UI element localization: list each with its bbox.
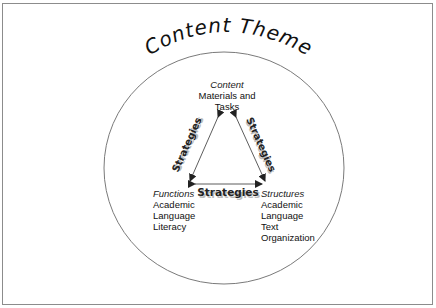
title-text: Content Theme — [140, 13, 317, 60]
node-content: Content Materials and Tasks — [180, 79, 274, 112]
diagram-canvas: Content Theme Strategies Strategies Stra… — [0, 0, 436, 308]
node-functions-line: Academic — [153, 199, 195, 210]
node-structures-line: Academic — [261, 199, 315, 210]
svg-text:Strategies: Strategies — [197, 186, 258, 198]
svg-text:Strategies: Strategies — [170, 116, 204, 174]
node-structures: Structures Academic Language Text Organi… — [261, 188, 315, 243]
node-functions-heading: Functions — [153, 188, 195, 199]
strategies-label-bottom: Strategies Strategies — [197, 186, 260, 200]
svg-text:Strategies: Strategies — [244, 116, 278, 174]
node-content-line: Materials and — [180, 90, 274, 101]
node-structures-line: Organization — [261, 232, 315, 243]
node-functions-line: Literacy — [153, 221, 195, 232]
node-structures-line: Text — [261, 221, 315, 232]
node-structures-line: Language — [261, 210, 315, 221]
strategies-label-right: Strategies Strategies — [243, 116, 279, 176]
node-structures-heading: Structures — [261, 188, 315, 199]
node-content-heading: Content — [180, 79, 274, 90]
node-functions-line: Language — [153, 210, 195, 221]
node-content-line: Tasks — [180, 101, 274, 112]
strategies-label-left: Strategies Strategies — [170, 114, 206, 174]
node-functions: Functions Academic Language Literacy — [153, 188, 195, 232]
